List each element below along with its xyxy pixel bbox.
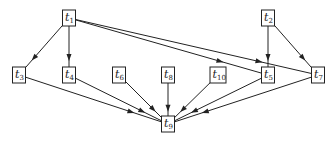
node-t5: t5 — [262, 67, 275, 83]
arrowhead-icon — [138, 107, 146, 115]
arrowhead-icon — [127, 108, 135, 115]
arrowhead-icon — [266, 54, 271, 61]
node-t8: t8 — [162, 67, 175, 83]
node-t6: t6 — [113, 67, 126, 83]
arrowhead-icon — [166, 105, 171, 112]
arrowhead-icon — [190, 107, 198, 115]
node-t7: t7 — [312, 67, 325, 83]
edge-t5-t9 — [175, 78, 262, 121]
node-t2: t2 — [262, 10, 275, 26]
node-t1: t1 — [63, 10, 76, 26]
edge-t1-t3 — [26, 25, 63, 67]
arrowhead-icon — [67, 54, 72, 61]
node-t3: t3 — [13, 67, 26, 83]
edge-t2-t7 — [275, 25, 312, 67]
edge-t4-t9 — [76, 78, 162, 121]
arrowhead-icon — [255, 58, 263, 64]
arrowhead-icon — [201, 108, 209, 115]
node-t10: t10 — [210, 67, 226, 83]
node-t9: t9 — [162, 116, 175, 132]
node-t4: t4 — [63, 67, 76, 83]
arrowhead-icon — [216, 58, 224, 65]
edge-t1-t5 — [76, 20, 262, 73]
edge-t7-t9 — [175, 77, 312, 122]
task-graph: t1t2t3t4t6t8t10t5t7t9 — [0, 0, 330, 150]
edge-t3-t9 — [26, 77, 162, 122]
